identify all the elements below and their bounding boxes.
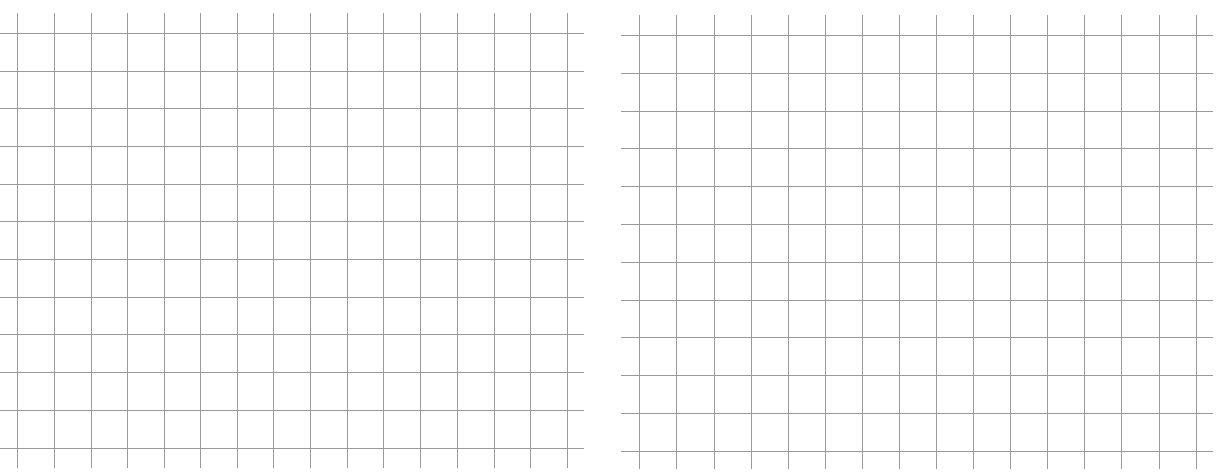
grid-vertical-line [1121, 15, 1122, 469]
grid-horizontal-line [621, 224, 1213, 225]
grid-horizontal-line [0, 410, 584, 411]
grid-vertical-line [237, 13, 238, 468]
grid-horizontal-line [621, 337, 1213, 338]
grid-vertical-line [751, 15, 752, 469]
grid-vertical-line [383, 13, 384, 468]
grid-horizontal-line [621, 148, 1213, 149]
grid-vertical-line [347, 13, 348, 468]
grid-horizontal-line [621, 73, 1213, 74]
grid-horizontal-line [621, 451, 1213, 452]
grid-vertical-line [17, 13, 18, 468]
grid-vertical-line [825, 15, 826, 469]
grid-vertical-line [1159, 15, 1160, 469]
grid-horizontal-line [621, 186, 1213, 187]
grid-horizontal-line [0, 297, 584, 298]
grid-vertical-line [164, 13, 165, 468]
grid-horizontal-line [0, 71, 584, 72]
grid-horizontal-line [0, 334, 584, 335]
grid-vertical-line [788, 15, 789, 469]
grid-vertical-line [973, 15, 974, 469]
grid-vertical-line [420, 13, 421, 468]
grid-vertical-line [714, 15, 715, 469]
grid-vertical-line [1196, 15, 1197, 469]
grid-horizontal-line [621, 375, 1213, 376]
grid-horizontal-line [0, 33, 584, 34]
grid-horizontal-line [0, 146, 584, 147]
grid-horizontal-line [621, 413, 1213, 414]
grid-vertical-line [457, 13, 458, 468]
grid-vertical-line [91, 13, 92, 468]
grid-vertical-line [1010, 15, 1011, 469]
grid-horizontal-line [621, 262, 1213, 263]
grid-horizontal-line [0, 184, 584, 185]
grid-vertical-line [862, 15, 863, 469]
grid-horizontal-line [621, 111, 1213, 112]
grid-vertical-line [899, 15, 900, 469]
grid-vertical-line [936, 15, 937, 469]
grid-vertical-line [567, 13, 568, 468]
grid-vertical-line [200, 13, 201, 468]
grid-horizontal-line [0, 108, 584, 109]
grid-vertical-line [530, 13, 531, 468]
grid-vertical-line [639, 15, 640, 469]
grid-horizontal-line [621, 35, 1213, 36]
grid-vertical-line [1084, 15, 1085, 469]
grid-vertical-line [54, 13, 55, 468]
grid-vertical-line [494, 13, 495, 468]
grid-vertical-line [273, 13, 274, 468]
grid-vertical-line [127, 13, 128, 468]
grid-horizontal-line [0, 259, 584, 260]
grid-horizontal-line [0, 221, 584, 222]
grid-vertical-line [310, 13, 311, 468]
grid-horizontal-line [0, 372, 584, 373]
grid-vertical-line [676, 15, 677, 469]
grid-horizontal-line [621, 300, 1213, 301]
grid-horizontal-line [0, 448, 584, 449]
grid-vertical-line [1047, 15, 1048, 469]
